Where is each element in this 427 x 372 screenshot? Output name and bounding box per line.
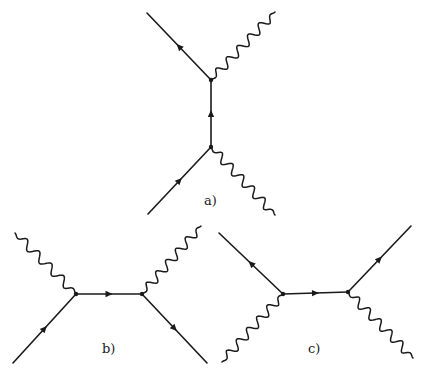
vertex-dot xyxy=(346,290,350,294)
diagram-c: c) xyxy=(219,226,413,362)
feynman-diagram-figure: a) b) c) xyxy=(0,0,427,372)
diagram-a: a) xyxy=(147,12,275,215)
diagram-label: c) xyxy=(308,341,320,356)
diagram-b: b) xyxy=(13,226,207,363)
arrow-icon xyxy=(208,110,214,117)
vertex-dot xyxy=(209,78,213,82)
diagram-label: b) xyxy=(102,341,115,356)
vertex-dot xyxy=(209,145,213,149)
photon-line xyxy=(211,147,275,215)
diagram-label: a) xyxy=(204,193,217,208)
vertex-dot xyxy=(281,292,285,296)
photon-line xyxy=(211,12,275,80)
arrow-icon xyxy=(106,291,113,297)
photon-line xyxy=(15,233,76,294)
photon-line xyxy=(348,292,413,358)
vertex-dot xyxy=(140,292,144,296)
arrow-icon xyxy=(312,290,319,296)
photon-line xyxy=(222,294,283,362)
photon-line xyxy=(142,226,201,294)
vertex-dot xyxy=(74,292,78,296)
